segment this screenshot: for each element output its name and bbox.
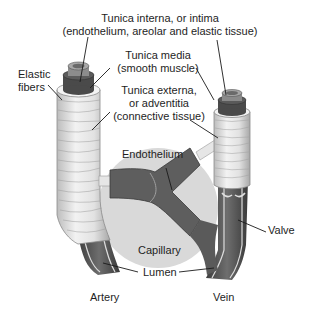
artery-externa	[57, 90, 110, 244]
label-elastic-fibers: Elastic fibers	[18, 68, 50, 94]
label-capillary: Capillary	[138, 244, 181, 257]
label-tunica-interna: Tunica interna, or intima (endothelium, …	[55, 12, 265, 38]
label-valve: Valve	[268, 224, 295, 237]
label-endothelium: Endothelium	[122, 148, 183, 161]
label-artery: Artery	[90, 291, 119, 304]
label-tunica-media: Tunica media (smooth muscle)	[113, 49, 203, 75]
label-lumen: Lumen	[143, 266, 177, 279]
label-vein: Vein	[213, 291, 234, 304]
label-tunica-externa: Tunica externa, or adventitia (connectiv…	[106, 84, 212, 123]
vein-externa	[214, 112, 250, 189]
